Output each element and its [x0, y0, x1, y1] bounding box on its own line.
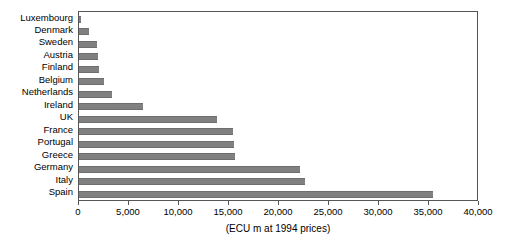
category-label: Denmark	[0, 25, 73, 35]
bar-row	[79, 176, 479, 189]
x-tick-mark	[178, 201, 179, 205]
x-tick-label: 15,000	[213, 206, 242, 217]
bar-row	[79, 51, 479, 64]
bar-row	[79, 101, 479, 114]
x-tick-label: 5,000	[116, 206, 140, 217]
bar	[79, 53, 98, 60]
category-label: Finland	[0, 62, 73, 72]
bar	[79, 78, 104, 85]
bar-row	[79, 113, 479, 126]
bar	[79, 141, 234, 148]
plot-frame	[78, 11, 478, 201]
category-label: France	[0, 125, 73, 135]
bar	[79, 116, 217, 123]
bar-row	[79, 38, 479, 51]
bar-row	[79, 88, 479, 101]
category-label: Portugal	[0, 137, 73, 147]
x-tick-mark	[128, 201, 129, 205]
x-axis: 05,00010,00015,00020,00025,00030,00035,0…	[78, 201, 478, 223]
bar	[79, 16, 81, 23]
x-axis-label: (ECU m at 1994 prices)	[78, 223, 478, 235]
x-tick-label: 0	[75, 206, 80, 217]
bar-row	[79, 138, 479, 151]
category-label: Belgium	[0, 75, 73, 85]
category-label: Ireland	[0, 100, 73, 110]
category-label: UK	[0, 112, 73, 122]
category-axis: LuxembourgDenmarkSwedenAustriaFinlandBel…	[0, 10, 76, 202]
category-label: Sweden	[0, 37, 73, 47]
x-tick-label: 10,000	[163, 206, 192, 217]
x-tick-label: 20,000	[263, 206, 292, 217]
bar-row	[79, 14, 479, 27]
bar	[79, 153, 235, 160]
x-tick-label: 30,000	[363, 206, 392, 217]
bar	[79, 191, 433, 198]
x-tick-mark	[78, 201, 79, 205]
category-label: Spain	[0, 187, 73, 197]
bar	[79, 166, 300, 173]
category-label: Netherlands	[0, 87, 73, 97]
x-tick-mark	[428, 201, 429, 205]
bar-row	[79, 151, 479, 164]
bar-row	[79, 126, 479, 139]
category-label: Austria	[0, 50, 73, 60]
x-tick-mark	[278, 201, 279, 205]
x-tick-label: 35,000	[413, 206, 442, 217]
bar	[79, 41, 97, 48]
x-tick-mark	[378, 201, 379, 205]
category-label: Germany	[0, 162, 73, 172]
category-label: Luxembourg	[0, 13, 73, 23]
bar-row	[79, 163, 479, 176]
bar	[79, 28, 89, 35]
bar-row	[79, 63, 479, 76]
x-tick-mark	[478, 201, 479, 205]
bar-row	[79, 188, 479, 201]
category-label: Italy	[0, 175, 73, 185]
bar	[79, 103, 143, 110]
bar	[79, 66, 99, 73]
x-tick-label: 40,000	[463, 206, 492, 217]
bar	[79, 128, 233, 135]
bar	[79, 178, 305, 185]
category-label: Greece	[0, 150, 73, 160]
plot-area	[79, 12, 477, 200]
x-tick-mark	[328, 201, 329, 205]
bar-chart: LuxembourgDenmarkSwedenAustriaFinlandBel…	[0, 0, 512, 249]
bar	[79, 91, 112, 98]
bar-row	[79, 76, 479, 89]
bar-row	[79, 26, 479, 39]
x-tick-mark	[228, 201, 229, 205]
x-tick-label: 25,000	[313, 206, 342, 217]
